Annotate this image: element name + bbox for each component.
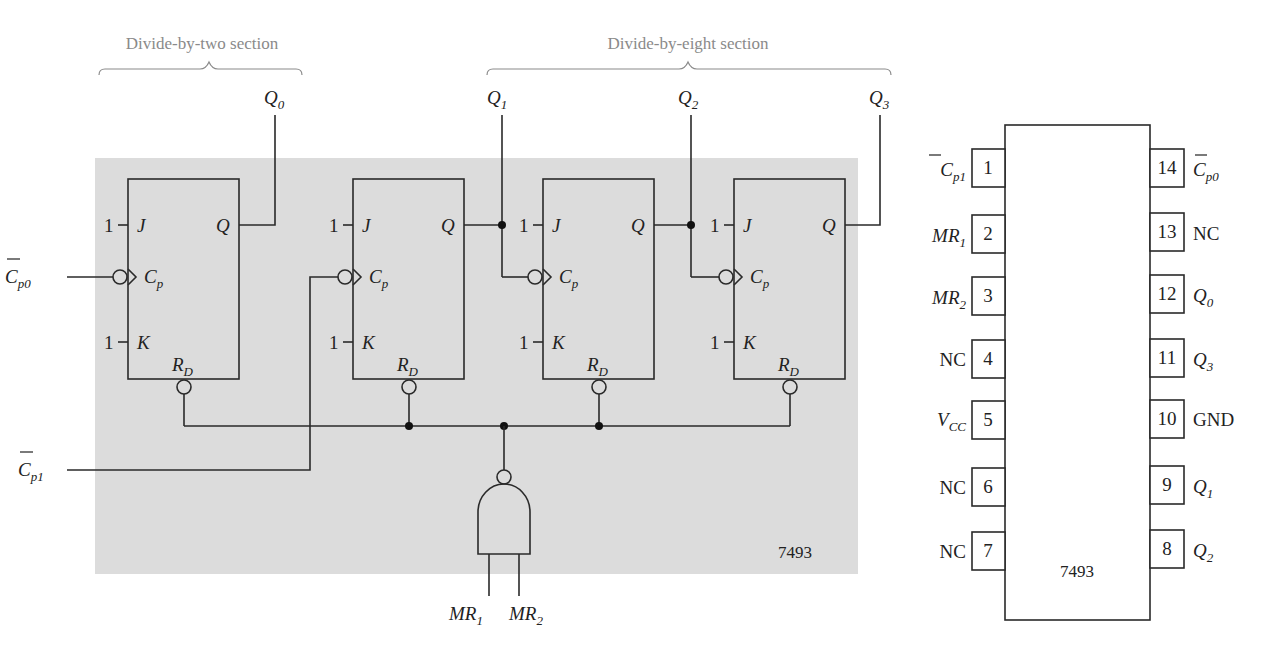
junction-dot	[405, 422, 413, 430]
output-label-q2: Q2	[678, 87, 699, 112]
svg-text:7: 7	[983, 540, 993, 561]
svg-text:11: 11	[1158, 347, 1176, 368]
svg-text:NC: NC	[940, 349, 966, 370]
svg-text:Q1: Q1	[487, 87, 507, 112]
junction-dot	[498, 221, 506, 229]
svg-text:Cp1: Cp1	[18, 459, 44, 484]
chip-label: 7493	[1060, 562, 1094, 581]
pin-4: 4 NC	[940, 340, 1005, 378]
svg-text:9: 9	[1162, 474, 1172, 495]
counter-7493-diagram: Divide-by-two section Divide-by-eight se…	[0, 0, 1262, 650]
svg-text:1: 1	[710, 215, 720, 236]
svg-text:MR2: MR2	[931, 287, 966, 312]
pin-9: 9 Q1	[1150, 466, 1213, 504]
pin-1: 1 Cp1	[929, 149, 1005, 187]
svg-text:Q: Q	[822, 215, 836, 236]
svg-text:Cp0: Cp0	[1193, 159, 1219, 184]
section-label-divide-by-eight: Divide-by-eight section	[608, 34, 769, 53]
svg-text:1: 1	[329, 215, 339, 236]
output-label-q1: Q1	[487, 87, 507, 112]
svg-text:1: 1	[104, 215, 114, 236]
pin-12: 12 Q0	[1150, 275, 1214, 313]
svg-text:MR1: MR1	[448, 603, 483, 628]
svg-text:13: 13	[1158, 221, 1177, 242]
svg-text:GND: GND	[1193, 409, 1234, 430]
svg-text:10: 10	[1158, 408, 1177, 429]
pinout-diagram: 7493 1 Cp1 2 MR1 3 MR2 4 NC 5 VCC	[929, 125, 1234, 620]
section-label-divide-by-two: Divide-by-two section	[126, 34, 279, 53]
svg-text:4: 4	[983, 348, 993, 369]
svg-text:1: 1	[519, 332, 529, 353]
divide-by-two-brace: Divide-by-two section	[99, 34, 302, 75]
svg-text:Q2: Q2	[1193, 540, 1214, 565]
svg-text:Q2: Q2	[678, 87, 699, 112]
pin-6: 6 NC	[940, 468, 1005, 506]
svg-text:14: 14	[1158, 157, 1178, 178]
svg-text:3: 3	[983, 285, 993, 306]
input-label-mr2: MR2	[508, 603, 543, 628]
svg-text:NC: NC	[1193, 223, 1219, 244]
svg-text:Q3: Q3	[1193, 349, 1214, 374]
svg-text:K: K	[361, 332, 376, 353]
svg-text:1: 1	[329, 332, 339, 353]
svg-text:Q: Q	[216, 215, 230, 236]
svg-text:Cp1: Cp1	[940, 159, 966, 184]
svg-text:Q3: Q3	[869, 87, 890, 112]
svg-text:VCC: VCC	[937, 409, 966, 434]
svg-text:MR2: MR2	[508, 603, 543, 628]
svg-text:1: 1	[519, 215, 529, 236]
svg-text:5: 5	[983, 409, 993, 430]
svg-text:2: 2	[983, 223, 993, 244]
svg-text:K: K	[742, 332, 757, 353]
svg-text:Cp0: Cp0	[5, 266, 31, 291]
svg-text:Q: Q	[441, 215, 455, 236]
pin-3: 3 MR2	[931, 277, 1005, 315]
svg-text:Q0: Q0	[264, 87, 285, 112]
logic-part-number: 7493	[778, 543, 812, 562]
svg-text:Q1: Q1	[1193, 476, 1213, 501]
pin-13: 13 NC	[1150, 213, 1219, 251]
output-label-q0: Q0	[264, 87, 285, 112]
pin-10: 10 GND	[1150, 400, 1234, 438]
pin-11: 11 Q3	[1150, 339, 1214, 377]
input-label-mr1: MR1	[448, 603, 483, 628]
svg-text:6: 6	[983, 476, 993, 497]
divide-by-eight-brace: Divide-by-eight section	[487, 34, 891, 75]
svg-text:1: 1	[104, 332, 114, 353]
svg-text:8: 8	[1162, 538, 1172, 559]
pin-5: 5 VCC	[937, 401, 1005, 439]
junction-dot	[595, 422, 603, 430]
input-label-cp0: Cp0	[5, 259, 31, 291]
svg-text:Q: Q	[631, 215, 645, 236]
svg-text:K: K	[136, 332, 151, 353]
pin-7: 7 NC	[940, 532, 1005, 570]
pin-2: 2 MR1	[931, 215, 1005, 253]
junction-dot	[687, 221, 695, 229]
input-label-cp1: Cp1	[18, 452, 44, 484]
svg-text:1: 1	[710, 332, 720, 353]
svg-text:MR1: MR1	[931, 225, 966, 250]
output-label-q3: Q3	[869, 87, 890, 112]
svg-text:Q0: Q0	[1193, 285, 1214, 310]
svg-text:1: 1	[983, 157, 993, 178]
svg-text:12: 12	[1158, 283, 1177, 304]
svg-text:K: K	[551, 332, 566, 353]
pin-8: 8 Q2	[1150, 530, 1214, 568]
svg-text:NC: NC	[940, 541, 966, 562]
pin-14: 14 Cp0	[1150, 149, 1219, 187]
svg-text:NC: NC	[940, 477, 966, 498]
